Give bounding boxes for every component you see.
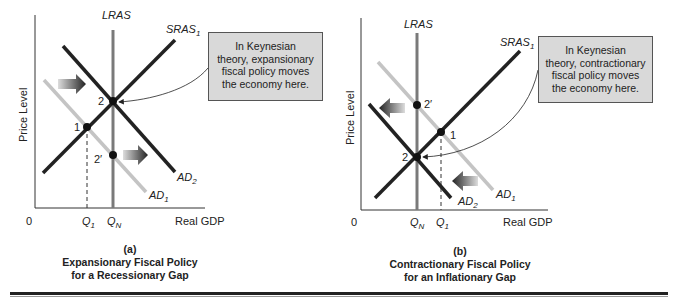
callout-box-a: In Keynesian theory, expansionary fiscal… <box>208 32 323 101</box>
lras-label: LRAS <box>102 9 131 21</box>
tick-qn: QN <box>410 216 425 231</box>
point-2-prime <box>109 151 117 159</box>
caption-title: Expansionary Fiscal Policy <box>40 256 220 269</box>
origin-label: 0 <box>26 215 32 227</box>
panel-a: Price Level 0 Real GDP Q1 QN LRAS SRAS1 … <box>17 9 225 230</box>
tick-q1: Q1 <box>82 215 95 230</box>
callout-line: In Keynesian <box>539 44 652 57</box>
sras-label: SRAS1 <box>166 23 200 38</box>
callout-line: fiscal policy moves <box>539 69 652 82</box>
tick-qn: QN <box>107 215 122 230</box>
caption-title: Contractionary Fiscal Policy <box>365 258 555 271</box>
panel-b: Price Level 0 Real GDP QN Q1 LRAS SRAS1 … <box>344 18 553 231</box>
point-1 <box>437 128 445 136</box>
ad2-curve <box>63 46 175 172</box>
shift-arrow-left-lower <box>452 171 478 191</box>
point-1-label: 1 <box>74 121 80 133</box>
sras-label: SRAS1 <box>500 36 534 51</box>
caption-letter: (b) <box>365 245 555 258</box>
sras-curve <box>375 51 520 198</box>
caption-subtitle: for an Inflationary Gap <box>365 271 555 284</box>
ad2-curve <box>369 104 451 198</box>
ad2-label: AD2 <box>457 195 478 210</box>
point-2-prime-label: 2′ <box>94 153 102 165</box>
x-axis-label: Real GDP <box>503 216 553 228</box>
point-1-label: 1 <box>450 129 456 141</box>
shift-arrow-left-upper <box>379 98 405 118</box>
point-2-label: 2 <box>402 151 408 163</box>
ad1-curve <box>378 62 493 190</box>
x-axis-label: Real GDP <box>175 215 225 227</box>
caption-a: (a) Expansionary Fiscal Policy for a Rec… <box>40 243 220 282</box>
callout-pointer <box>423 70 538 157</box>
point-2 <box>413 153 421 161</box>
callout-line: theory, contractionary <box>539 57 652 70</box>
point-2 <box>109 97 117 105</box>
ad1-label: AD1 <box>148 189 169 204</box>
callout-line: In Keynesian <box>209 40 322 53</box>
bottom-rule-thin <box>10 296 668 297</box>
ad1-curve <box>44 80 146 192</box>
caption-b: (b) Contractionary Fiscal Policy for an … <box>365 245 555 284</box>
point-2-prime-label: 2′ <box>424 98 432 110</box>
tick-q1: Q1 <box>436 216 449 231</box>
lras-label: LRAS <box>404 18 433 30</box>
point-2-label: 2 <box>98 95 104 107</box>
bottom-rule <box>10 292 668 295</box>
y-axis-label: Price Level <box>17 88 29 142</box>
shift-arrow-right-upper <box>58 74 86 94</box>
caption-letter: (a) <box>40 243 220 256</box>
ad2-label: AD2 <box>176 171 197 186</box>
callout-box-b: In Keynesian theory, contractionary fisc… <box>538 36 653 103</box>
point-1 <box>83 123 91 131</box>
ad1-label: AD1 <box>495 188 516 203</box>
caption-subtitle: for a Recessionary Gap <box>40 269 220 282</box>
callout-line: the economy here. <box>209 78 322 91</box>
point-2-prime <box>413 101 421 109</box>
shift-arrow-right-lower <box>123 145 148 165</box>
callout-line: the economy here. <box>539 82 652 95</box>
y-axis-label: Price Level <box>344 91 356 145</box>
callout-line: fiscal policy moves <box>209 65 322 78</box>
callout-line: theory, expansionary <box>209 53 322 66</box>
origin-label: 0 <box>351 216 357 228</box>
